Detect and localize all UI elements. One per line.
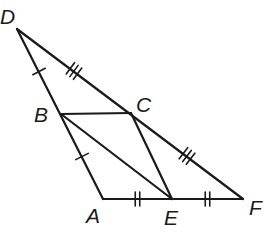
label-point-A: A [86,205,100,226]
label-point-D: D [0,6,15,27]
segment-BC [61,113,131,114]
label-point-C: C [136,94,151,115]
segment-CE [131,113,172,199]
segment-BE [61,114,172,199]
label-point-B: B [34,104,48,125]
label-point-F: F [249,197,262,218]
label-point-E: E [164,207,178,228]
geometry-diagram: D B C A E F [0,0,271,246]
